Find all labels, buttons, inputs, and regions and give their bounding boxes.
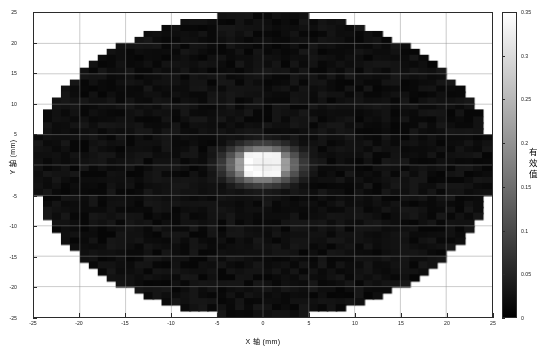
x-tickmark <box>79 313 80 318</box>
y-tick-label: -20 <box>0 284 17 290</box>
x-tick-label: -20 <box>67 320 91 326</box>
x-tickmark <box>125 313 126 318</box>
x-tick-label: -25 <box>21 320 45 326</box>
y-tickmark <box>33 104 37 105</box>
y-tickmark <box>33 226 37 227</box>
y-tickmark <box>33 165 37 166</box>
x-axis-label: X 轴 (mm) <box>163 336 363 346</box>
y-tickmark <box>33 73 37 74</box>
y-tickmark <box>33 134 37 135</box>
y-tickmark <box>33 43 37 44</box>
colorbar <box>502 12 517 318</box>
y-tickmark <box>33 196 37 197</box>
y-tick-label: -5 <box>0 193 17 199</box>
x-tickmark <box>447 313 448 318</box>
figure-root: 2520151050-5-10-15-20-25 -25-20-15-10-50… <box>0 0 551 357</box>
x-tick-label: 10 <box>343 320 367 326</box>
y-axis-ticks: 2520151050-5-10-15-20-25 <box>0 0 551 357</box>
y-tick-label: 15 <box>0 70 17 76</box>
x-tick-label: 25 <box>481 320 505 326</box>
y-tickmark <box>33 257 37 258</box>
y-tick-label: -10 <box>0 223 17 229</box>
x-tickmark <box>217 313 218 318</box>
x-tickmark <box>263 313 264 318</box>
colorbar-label-char-1: 有 <box>526 147 540 158</box>
colorbar-label: 有 效 值 <box>526 147 540 180</box>
y-axis-label: Y 轴 (mm) <box>7 125 17 189</box>
x-tick-label: 0 <box>251 320 275 326</box>
x-tick-label: 20 <box>435 320 459 326</box>
y-tick-label: -25 <box>0 315 17 321</box>
y-tickmark <box>33 318 37 319</box>
y-tick-label: 20 <box>0 40 17 46</box>
x-tickmark <box>401 313 402 318</box>
x-tick-label: -15 <box>113 320 137 326</box>
x-tickmark <box>171 313 172 318</box>
colorbar-label-char-3: 值 <box>526 169 540 180</box>
y-tickmark <box>33 12 37 13</box>
x-tickmark <box>33 313 34 318</box>
x-tick-label: -5 <box>205 320 229 326</box>
x-tickmark <box>309 313 310 318</box>
y-tick-label: 10 <box>0 101 17 107</box>
y-tickmark <box>33 287 37 288</box>
y-tick-label: 25 <box>0 9 17 15</box>
x-tickmark <box>493 313 494 318</box>
x-tick-label: 5 <box>297 320 321 326</box>
x-tick-label: 15 <box>389 320 413 326</box>
y-tick-label: -15 <box>0 254 17 260</box>
x-tick-label: -10 <box>159 320 183 326</box>
colorbar-label-char-2: 效 <box>526 158 540 169</box>
x-tickmark <box>355 313 356 318</box>
